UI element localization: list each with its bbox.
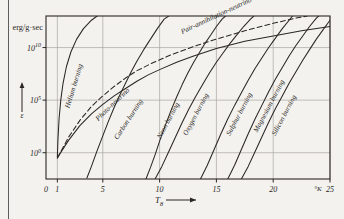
x-tick-label: 5	[101, 185, 105, 194]
energy-generation-chart: Helium burningPhoto-neutrinoCarbon burni…	[0, 0, 344, 219]
x-axis-title: T8	[155, 195, 196, 207]
x-axis: 01510152025°K	[44, 179, 334, 194]
curve-pair-annihilation-neutrino	[57, 16, 307, 158]
y-unit-label: erg/g·sec	[12, 23, 43, 32]
x-tick-label: 20	[269, 185, 277, 194]
y-tick-label: 105	[30, 95, 41, 105]
x-axis-title-text: T8	[155, 195, 164, 207]
curve-silicon-burning	[241, 20, 330, 179]
x-tick-label: 25	[326, 185, 334, 194]
figure-page: Helium burningPhoto-neutrinoCarbon burni…	[0, 0, 344, 219]
curve-label-helium-burning: Helium burning	[63, 63, 84, 110]
x-unit-label: °K	[314, 185, 322, 193]
y-axis-arrow-head	[20, 82, 25, 88]
plot-frame	[46, 16, 330, 179]
x-tick-label: 1	[55, 185, 59, 194]
x-tick-label: 15	[212, 185, 220, 194]
curve-photo-neutrino	[57, 27, 330, 158]
curve-carbon-burning	[87, 16, 169, 178]
x-axis-arrow-head	[190, 198, 196, 203]
y-axis-title-text: ε	[20, 111, 24, 120]
curve-labels: Helium burningPhoto-neutrinoCarbon burni…	[63, 0, 298, 141]
x-tick-label: 10	[156, 185, 164, 194]
gridlines	[46, 16, 330, 179]
x-tick-label: 0	[44, 185, 48, 194]
y-tick-label: 100	[30, 148, 41, 158]
y-axis: 1010105100erg/g·secε	[12, 23, 46, 158]
curve-label-neon-burning: Neon burning	[155, 101, 181, 141]
y-tick-label: 1010	[27, 42, 41, 52]
